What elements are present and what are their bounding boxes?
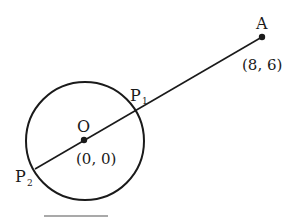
label-o-coords: (0, 0) (76, 150, 116, 168)
label-p1-subscript: 1 (142, 96, 148, 106)
point-a (259, 34, 265, 40)
label-p1: P (130, 86, 141, 105)
diagram-canvas: O (0, 0) A (8, 6) P 1 P 2 (0, 0, 304, 219)
line-p2-to-a (35, 37, 262, 169)
center-point-o (81, 137, 87, 143)
label-o: O (77, 117, 90, 136)
label-p2-subscript: 2 (27, 178, 33, 188)
label-a-coords: (8, 6) (242, 56, 282, 74)
label-p2: P (15, 167, 26, 186)
label-a: A (255, 14, 268, 33)
